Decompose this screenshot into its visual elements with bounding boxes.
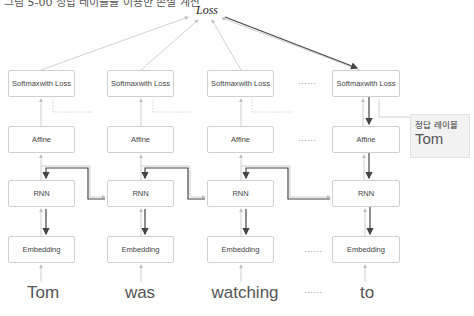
embedding-box-3: Embedding	[207, 236, 274, 263]
ellipsis-embedding: ……	[304, 244, 322, 254]
box-label: Affine	[131, 135, 150, 144]
box-label: with Loss	[40, 79, 71, 88]
ellipsis-inputs: ……	[304, 285, 322, 295]
ellipsis-affine: ……	[298, 133, 316, 143]
ellipsis-softmax: ……	[298, 76, 316, 86]
box-label: Affine	[32, 135, 51, 144]
rnn-box-3: RNN	[207, 180, 274, 207]
box-label: Softmax	[211, 79, 239, 88]
box-label: Embedding	[23, 245, 61, 254]
box-label: RNN	[33, 189, 49, 198]
box-label: Softmax	[12, 79, 40, 88]
affine-box-4: Affine	[332, 126, 400, 153]
box-label: RNN	[132, 189, 148, 198]
box-label: with Loss	[364, 79, 395, 88]
embedding-box-1: Embedding	[8, 236, 75, 263]
rnn-box-1: RNN	[8, 180, 75, 207]
box-label: Affine	[231, 135, 250, 144]
softmax-with-loss-box-3: Softmaxwith Loss	[207, 70, 274, 97]
callout-title: 정답 레이블	[415, 118, 465, 130]
rnn-box-2: RNN	[107, 180, 174, 207]
softmax-with-loss-box-1: Softmaxwith Loss	[8, 70, 75, 97]
affine-box-3: Affine	[207, 126, 274, 153]
embedding-box-2: Embedding	[107, 236, 174, 263]
box-label: RNN	[232, 189, 248, 198]
box-label: Embedding	[122, 245, 160, 254]
box-label: Embedding	[347, 245, 385, 254]
connection-wires	[0, 0, 474, 316]
softmax-with-loss-box-4: Softmaxwith Loss	[332, 70, 400, 97]
box-label: with Loss	[239, 79, 270, 88]
softmax-with-loss-box-2: Softmaxwith Loss	[107, 70, 174, 97]
loss-node: Loss	[196, 3, 218, 18]
box-label: Softmax	[111, 79, 139, 88]
callout-value: Tom	[415, 130, 465, 147]
box-label: RNN	[358, 189, 374, 198]
rnn-box-4: RNN	[332, 180, 400, 207]
input-word-2: was	[125, 283, 155, 303]
input-word-4: to	[360, 283, 374, 303]
input-word-3: watching	[211, 283, 278, 303]
correct-label-callout: 정답 레이블 Tom	[410, 114, 470, 158]
affine-box-2: Affine	[107, 126, 174, 153]
affine-box-1: Affine	[8, 126, 75, 153]
box-label: Softmax	[337, 79, 365, 88]
input-word-1: Tom	[27, 283, 59, 303]
box-label: with Loss	[139, 79, 170, 88]
box-label: Embedding	[222, 245, 260, 254]
box-label: Affine	[356, 135, 375, 144]
embedding-box-4: Embedding	[332, 236, 400, 263]
ellipsis-rnn: ……	[300, 191, 318, 201]
